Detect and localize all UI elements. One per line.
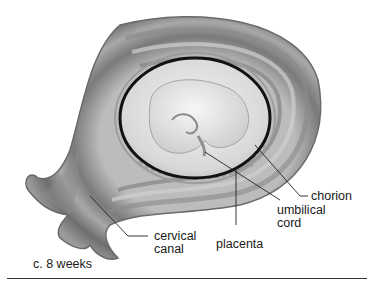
label-text: chorion xyxy=(311,189,352,203)
label-text: canal xyxy=(154,243,196,256)
label-text: cord xyxy=(277,217,326,230)
label-chorion: chorion xyxy=(311,190,352,203)
label-text: placenta xyxy=(216,237,263,251)
figure-caption: c. 8 weeks xyxy=(33,257,92,271)
label-cervical-canal: cervical canal xyxy=(154,230,196,256)
embryo xyxy=(149,80,248,156)
caption-divider xyxy=(7,278,367,279)
label-umbilical-cord: umbilical cord xyxy=(277,204,326,230)
label-placenta: placenta xyxy=(216,238,263,251)
